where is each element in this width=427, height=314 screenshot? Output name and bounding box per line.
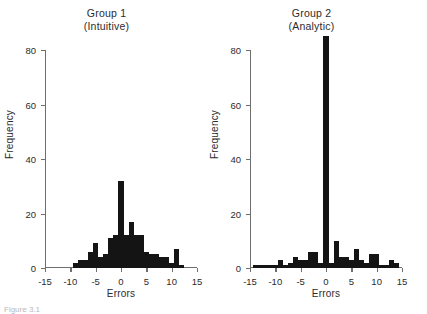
x-axis-tick-label: 10 bbox=[371, 276, 382, 287]
x-axis-label-group-2: Errors bbox=[250, 288, 402, 299]
x-axis-tick: 5 bbox=[146, 268, 147, 272]
chart-title-group-1: Group 1 (Intuitive) bbox=[0, 7, 213, 33]
bar-series-group-1 bbox=[45, 50, 197, 268]
y-axis-tick-label: 20 bbox=[25, 208, 36, 219]
chart-title-subtitle: (Analytic) bbox=[205, 20, 418, 33]
chart-panel-group-1: Group 1 (Intuitive) Frequency 020406080 … bbox=[0, 0, 213, 300]
plot-area-group-1: 020406080 -15-10-5051015 bbox=[45, 50, 197, 268]
x-axis-tick-label: -10 bbox=[63, 276, 77, 287]
x-axis-tick-label: 15 bbox=[397, 276, 408, 287]
x-axis-tick-label: -5 bbox=[296, 276, 304, 287]
y-axis-tick-label: 80 bbox=[25, 45, 36, 56]
y-axis-tick: 60 bbox=[41, 105, 45, 106]
x-axis-tick-label: 5 bbox=[144, 276, 149, 287]
plot-area-group-2: 020406080 -15-10-5051015 bbox=[250, 50, 402, 268]
y-axis-tick-label: 40 bbox=[230, 154, 241, 165]
y-axis-tick: 20 bbox=[246, 214, 250, 215]
x-axis-tick: 15 bbox=[402, 268, 403, 272]
y-axis-tick: 20 bbox=[41, 214, 45, 215]
y-axis-tick-label: 0 bbox=[31, 263, 36, 274]
x-axis-tick: -10 bbox=[275, 268, 276, 272]
x-axis-tick: 5 bbox=[351, 268, 352, 272]
y-axis-tick: 40 bbox=[246, 159, 250, 160]
figure-caption: Figure 3.1 bbox=[4, 305, 40, 314]
y-axis-tick-label: 40 bbox=[25, 154, 36, 165]
x-axis-tick-label: 5 bbox=[349, 276, 354, 287]
chart-title-main: Group 1 bbox=[87, 7, 126, 19]
x-axis-tick: 15 bbox=[197, 268, 198, 272]
y-axis-tick: 60 bbox=[246, 105, 250, 106]
x-axis-tick: -15 bbox=[250, 268, 251, 272]
y-axis-tick-label: 60 bbox=[230, 99, 241, 110]
histogram-bar bbox=[394, 263, 399, 268]
x-axis-tick-label: -5 bbox=[91, 276, 99, 287]
x-axis-tick: 10 bbox=[377, 268, 378, 272]
histogram-bar bbox=[323, 36, 328, 268]
x-axis-tick: -5 bbox=[96, 268, 97, 272]
x-axis-tick-label: 0 bbox=[323, 276, 328, 287]
x-axis-tick: 0 bbox=[121, 268, 122, 272]
x-axis-tick: -15 bbox=[45, 268, 46, 272]
x-axis-tick-label: -15 bbox=[38, 276, 52, 287]
y-axis-label-group-2: Frequency bbox=[209, 110, 220, 159]
x-axis-tick: 10 bbox=[172, 268, 173, 272]
chart-title-group-2: Group 2 (Analytic) bbox=[205, 7, 418, 33]
histogram-bar bbox=[179, 265, 184, 268]
chart-panel-group-2: Group 2 (Analytic) Frequency 020406080 -… bbox=[205, 0, 418, 300]
x-axis-tick-label: 0 bbox=[118, 276, 123, 287]
y-axis-tick-label: 0 bbox=[236, 263, 241, 274]
y-axis-tick-label: 20 bbox=[230, 208, 241, 219]
y-axis-tick: 80 bbox=[41, 50, 45, 51]
x-axis-tick-label: -15 bbox=[243, 276, 257, 287]
bar-series-group-2 bbox=[250, 50, 402, 268]
x-axis-tick-label: -10 bbox=[268, 276, 282, 287]
x-axis-label-group-1: Errors bbox=[45, 288, 197, 299]
x-axis-tick: 0 bbox=[326, 268, 327, 272]
y-axis-tick: 80 bbox=[246, 50, 250, 51]
y-axis-label-group-1: Frequency bbox=[4, 110, 15, 159]
chart-title-main: Group 2 bbox=[292, 7, 331, 19]
x-axis-tick-label: 10 bbox=[166, 276, 177, 287]
y-axis-tick-label: 80 bbox=[230, 45, 241, 56]
x-axis-tick: -5 bbox=[301, 268, 302, 272]
x-axis-tick: -10 bbox=[70, 268, 71, 272]
x-axis-tick-label: 15 bbox=[192, 276, 203, 287]
y-axis-tick: 40 bbox=[41, 159, 45, 160]
y-axis-tick-label: 60 bbox=[25, 99, 36, 110]
chart-title-subtitle: (Intuitive) bbox=[0, 20, 213, 33]
